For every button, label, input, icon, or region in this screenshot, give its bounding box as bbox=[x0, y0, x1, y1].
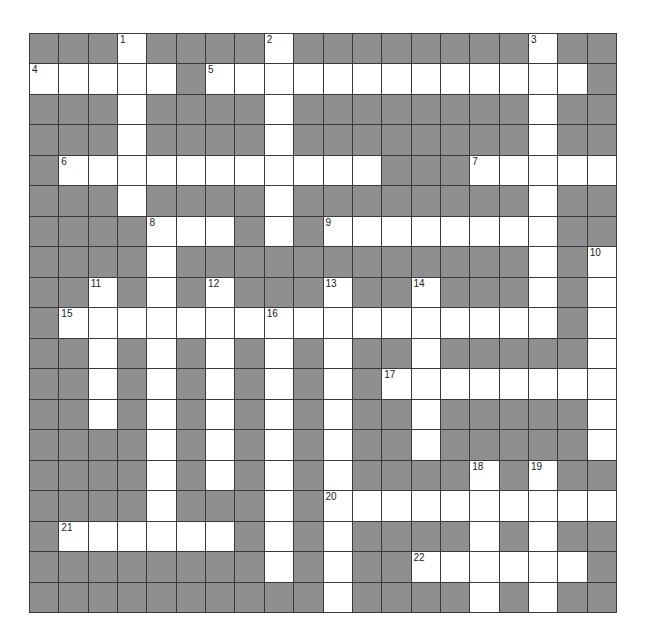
crossword-cell[interactable] bbox=[470, 583, 498, 612]
crossword-cell[interactable] bbox=[558, 64, 586, 93]
crossword-cell[interactable] bbox=[147, 308, 175, 337]
crossword-cell[interactable]: 19 bbox=[529, 461, 557, 490]
crossword-cell[interactable] bbox=[412, 308, 440, 337]
crossword-cell[interactable] bbox=[529, 583, 557, 612]
crossword-cell[interactable] bbox=[324, 400, 352, 429]
crossword-cell[interactable] bbox=[235, 156, 263, 185]
crossword-cell[interactable] bbox=[147, 64, 175, 93]
crossword-cell[interactable] bbox=[265, 339, 293, 368]
crossword-cell[interactable] bbox=[500, 217, 528, 246]
crossword-cell[interactable] bbox=[177, 217, 205, 246]
crossword-cell[interactable] bbox=[470, 369, 498, 398]
crossword-cell[interactable]: 20 bbox=[324, 491, 352, 520]
crossword-cell[interactable] bbox=[588, 308, 616, 337]
crossword-cell[interactable] bbox=[294, 64, 322, 93]
crossword-cell[interactable] bbox=[235, 64, 263, 93]
crossword-cell[interactable] bbox=[206, 308, 234, 337]
crossword-cell[interactable] bbox=[558, 156, 586, 185]
crossword-cell[interactable]: 11 bbox=[89, 278, 117, 307]
crossword-cell[interactable] bbox=[206, 339, 234, 368]
crossword-cell[interactable] bbox=[265, 491, 293, 520]
crossword-cell[interactable] bbox=[89, 156, 117, 185]
crossword-cell[interactable] bbox=[324, 583, 352, 612]
crossword-cell[interactable] bbox=[500, 491, 528, 520]
crossword-cell[interactable] bbox=[529, 491, 557, 520]
crossword-cell[interactable]: 21 bbox=[59, 522, 87, 551]
crossword-cell[interactable] bbox=[412, 217, 440, 246]
crossword-cell[interactable]: 9 bbox=[324, 217, 352, 246]
crossword-cell[interactable] bbox=[294, 308, 322, 337]
crossword-cell[interactable] bbox=[324, 339, 352, 368]
crossword-cell[interactable] bbox=[118, 64, 146, 93]
crossword-cell[interactable] bbox=[265, 400, 293, 429]
crossword-cell[interactable] bbox=[206, 400, 234, 429]
crossword-cell[interactable] bbox=[588, 400, 616, 429]
crossword-cell[interactable] bbox=[265, 461, 293, 490]
crossword-cell[interactable]: 5 bbox=[206, 64, 234, 93]
crossword-cell[interactable]: 3 bbox=[529, 34, 557, 63]
crossword-cell[interactable] bbox=[118, 95, 146, 124]
crossword-cell[interactable]: 13 bbox=[324, 278, 352, 307]
crossword-cell[interactable] bbox=[353, 156, 381, 185]
crossword-cell[interactable] bbox=[382, 217, 410, 246]
crossword-cell[interactable] bbox=[529, 217, 557, 246]
crossword-cell[interactable] bbox=[324, 461, 352, 490]
crossword-cell[interactable] bbox=[441, 552, 469, 581]
crossword-cell[interactable] bbox=[206, 522, 234, 551]
crossword-cell[interactable] bbox=[412, 491, 440, 520]
crossword-cell[interactable] bbox=[89, 339, 117, 368]
crossword-cell[interactable] bbox=[500, 552, 528, 581]
crossword-cell[interactable] bbox=[265, 369, 293, 398]
crossword-cell[interactable] bbox=[265, 95, 293, 124]
crossword-cell[interactable]: 18 bbox=[470, 461, 498, 490]
crossword-cell[interactable] bbox=[89, 308, 117, 337]
crossword-cell[interactable] bbox=[89, 522, 117, 551]
crossword-cell[interactable] bbox=[558, 552, 586, 581]
crossword-cell[interactable] bbox=[470, 491, 498, 520]
crossword-cell[interactable] bbox=[382, 308, 410, 337]
crossword-cell[interactable] bbox=[324, 156, 352, 185]
crossword-cell[interactable] bbox=[529, 125, 557, 154]
crossword-cell[interactable] bbox=[147, 400, 175, 429]
crossword-cell[interactable] bbox=[412, 64, 440, 93]
crossword-cell[interactable] bbox=[206, 430, 234, 459]
crossword-cell[interactable] bbox=[412, 369, 440, 398]
crossword-cell[interactable] bbox=[294, 156, 322, 185]
crossword-cell[interactable] bbox=[265, 156, 293, 185]
crossword-cell[interactable] bbox=[147, 278, 175, 307]
crossword-cell[interactable] bbox=[441, 308, 469, 337]
crossword-cell[interactable] bbox=[441, 491, 469, 520]
crossword-cell[interactable]: 12 bbox=[206, 278, 234, 307]
crossword-cell[interactable] bbox=[470, 217, 498, 246]
crossword-cell[interactable]: 7 bbox=[470, 156, 498, 185]
crossword-cell[interactable] bbox=[265, 522, 293, 551]
crossword-cell[interactable] bbox=[588, 491, 616, 520]
crossword-cell[interactable] bbox=[529, 278, 557, 307]
crossword-cell[interactable] bbox=[324, 64, 352, 93]
crossword-cell[interactable]: 22 bbox=[412, 552, 440, 581]
crossword-cell[interactable] bbox=[412, 430, 440, 459]
crossword-cell[interactable] bbox=[529, 186, 557, 215]
crossword-cell[interactable] bbox=[118, 125, 146, 154]
crossword-cell[interactable] bbox=[147, 430, 175, 459]
crossword-cell[interactable] bbox=[206, 369, 234, 398]
crossword-cell[interactable] bbox=[118, 308, 146, 337]
crossword-cell[interactable] bbox=[529, 95, 557, 124]
crossword-cell[interactable] bbox=[324, 430, 352, 459]
crossword-cell[interactable] bbox=[177, 308, 205, 337]
crossword-cell[interactable] bbox=[235, 308, 263, 337]
crossword-cell[interactable]: 15 bbox=[59, 308, 87, 337]
crossword-cell[interactable] bbox=[558, 491, 586, 520]
crossword-cell[interactable] bbox=[529, 156, 557, 185]
crossword-cell[interactable]: 4 bbox=[30, 64, 58, 93]
crossword-cell[interactable] bbox=[470, 308, 498, 337]
crossword-cell[interactable]: 10 bbox=[588, 247, 616, 276]
crossword-cell[interactable] bbox=[147, 491, 175, 520]
crossword-cell[interactable] bbox=[147, 369, 175, 398]
crossword-cell[interactable] bbox=[118, 156, 146, 185]
crossword-cell[interactable] bbox=[558, 369, 586, 398]
crossword-cell[interactable] bbox=[441, 64, 469, 93]
crossword-cell[interactable] bbox=[265, 64, 293, 93]
crossword-cell[interactable] bbox=[265, 430, 293, 459]
crossword-cell[interactable] bbox=[470, 64, 498, 93]
